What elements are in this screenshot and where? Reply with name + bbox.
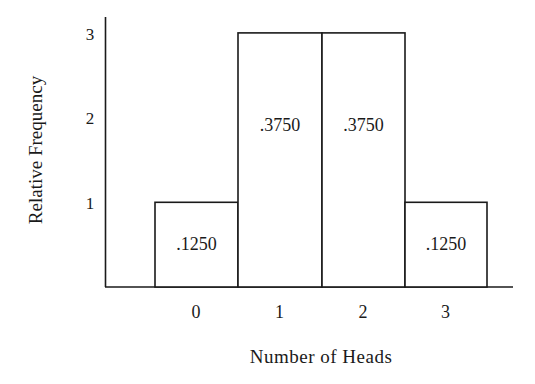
histogram-chart: 3 2 1 Relative Frequency .1250.3750.3750…: [0, 0, 535, 384]
y-tick-label: 3: [86, 25, 95, 44]
bars: .1250.3750.3750.1250: [155, 33, 487, 287]
histogram-bar: [322, 33, 405, 287]
histogram-bar: [238, 33, 322, 287]
y-axis-label: Relative Frequency: [25, 75, 46, 224]
bar-value-label: .3750: [260, 115, 301, 135]
x-tick-label: 3: [441, 302, 450, 322]
bar-value-label: .3750: [343, 115, 384, 135]
x-tick-labels: 0123: [192, 302, 451, 322]
y-tick-label: 1: [86, 194, 95, 213]
y-tick-labels: 3 2 1: [86, 25, 95, 213]
x-tick-label: 1: [275, 302, 284, 322]
bar-value-label: .1250: [426, 234, 467, 254]
y-tick-label: 2: [86, 109, 95, 128]
x-tick-label: 2: [359, 302, 368, 322]
x-axis-label: Number of Heads: [250, 346, 393, 367]
x-tick-label: 0: [192, 302, 201, 322]
bar-value-label: .1250: [176, 234, 217, 254]
